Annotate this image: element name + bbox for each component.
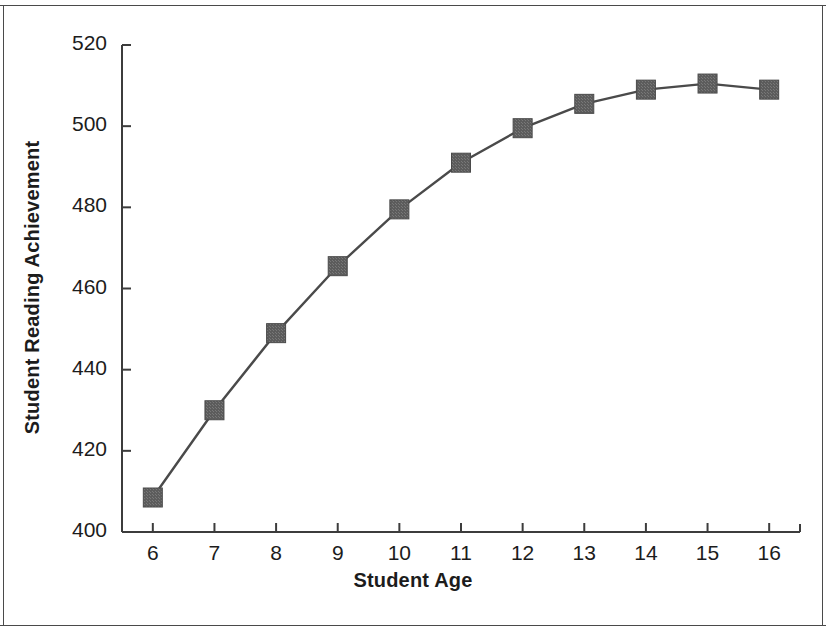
y-tick-label: 500 [37, 112, 107, 136]
y-tick-label: 440 [37, 356, 107, 380]
data-point-marker [390, 200, 409, 219]
y-axis-title: Student Reading Achievement [21, 38, 44, 538]
line-chart: 400420440460480500520 678910111213141516… [0, 0, 826, 643]
data-point-marker [143, 488, 162, 507]
data-point-marker [205, 401, 224, 420]
x-tick-label: 13 [564, 541, 604, 565]
data-point-marker [267, 324, 286, 343]
data-point-marker [760, 80, 779, 99]
data-point-marker [575, 94, 594, 113]
x-tick-label: 16 [749, 541, 789, 565]
data-point-marker [328, 257, 347, 276]
data-point-marker [452, 153, 471, 172]
x-tick-marks [153, 523, 769, 532]
data-point-marker [698, 74, 717, 93]
x-tick-label: 9 [318, 541, 358, 565]
x-tick-label: 15 [688, 541, 728, 565]
y-tick-label: 520 [37, 31, 107, 55]
y-tick-label: 400 [37, 518, 107, 542]
data-point-marker [513, 119, 532, 138]
x-tick-label: 6 [133, 541, 173, 565]
y-tick-marks [122, 45, 131, 532]
data-markers [143, 74, 778, 507]
y-tick-label: 480 [37, 193, 107, 217]
data-point-marker [636, 80, 655, 99]
x-tick-label: 11 [441, 541, 481, 565]
x-tick-label: 10 [379, 541, 419, 565]
data-line [153, 84, 769, 498]
x-tick-label: 7 [194, 541, 234, 565]
x-tick-label: 14 [626, 541, 666, 565]
x-axis-title: Student Age [0, 569, 826, 592]
x-tick-label: 12 [503, 541, 543, 565]
y-tick-label: 420 [37, 437, 107, 461]
x-tick-label: 8 [256, 541, 296, 565]
chart-page: 400420440460480500520 678910111213141516… [0, 0, 826, 643]
axes [122, 45, 800, 532]
y-tick-label: 460 [37, 275, 107, 299]
